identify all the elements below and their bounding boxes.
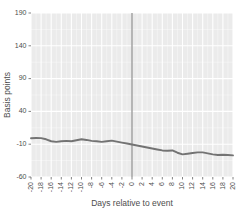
- y-tick-label: 40: [19, 107, 27, 114]
- y-tick-label: 190: [15, 9, 27, 16]
- x-tick-label: 18: [219, 182, 226, 190]
- x-tick-label: 0: [128, 182, 135, 186]
- x-tick-label: 20: [229, 182, 236, 190]
- x-axis-title: Days relative to event: [91, 198, 173, 208]
- x-tick-label: 14: [199, 182, 206, 190]
- x-tick-label: -20: [27, 182, 34, 192]
- x-tick-label: 2: [138, 182, 145, 186]
- y-tick-label: 90: [19, 74, 27, 81]
- x-tick-label: 10: [178, 182, 185, 190]
- y-tick-label: -10: [16, 140, 26, 147]
- y-tick-label: 140: [15, 42, 27, 49]
- x-tick-label: -6: [98, 182, 105, 188]
- x-tick-label: 4: [148, 182, 155, 186]
- line-chart: -20-18-16-14-12-10-8-6-4-202468101214161…: [0, 0, 239, 211]
- y-axis-title: Basis points: [2, 72, 12, 118]
- x-tick-label: 12: [188, 182, 195, 190]
- x-tick-label: -12: [67, 182, 74, 192]
- y-tick-label: -60: [16, 173, 26, 180]
- x-tick-label: -8: [87, 182, 94, 188]
- x-axis-tick-marks: [31, 177, 233, 180]
- x-tick-label: -14: [57, 182, 64, 192]
- x-tick-label: -16: [47, 182, 54, 192]
- x-tick-label: -2: [118, 182, 125, 188]
- x-tick-label: 8: [168, 182, 175, 186]
- x-tick-label: -4: [108, 182, 115, 188]
- x-tick-label: 6: [158, 182, 165, 186]
- y-axis-tick-labels: -60-104090140190: [15, 9, 27, 180]
- x-tick-label: 16: [209, 182, 216, 190]
- x-tick-label: -18: [37, 182, 44, 192]
- chart-figure: -20-18-16-14-12-10-8-6-4-202468101214161…: [0, 0, 239, 211]
- x-tick-label: -10: [77, 182, 84, 192]
- x-axis-tick-labels: -20-18-16-14-12-10-8-6-4-202468101214161…: [27, 182, 236, 192]
